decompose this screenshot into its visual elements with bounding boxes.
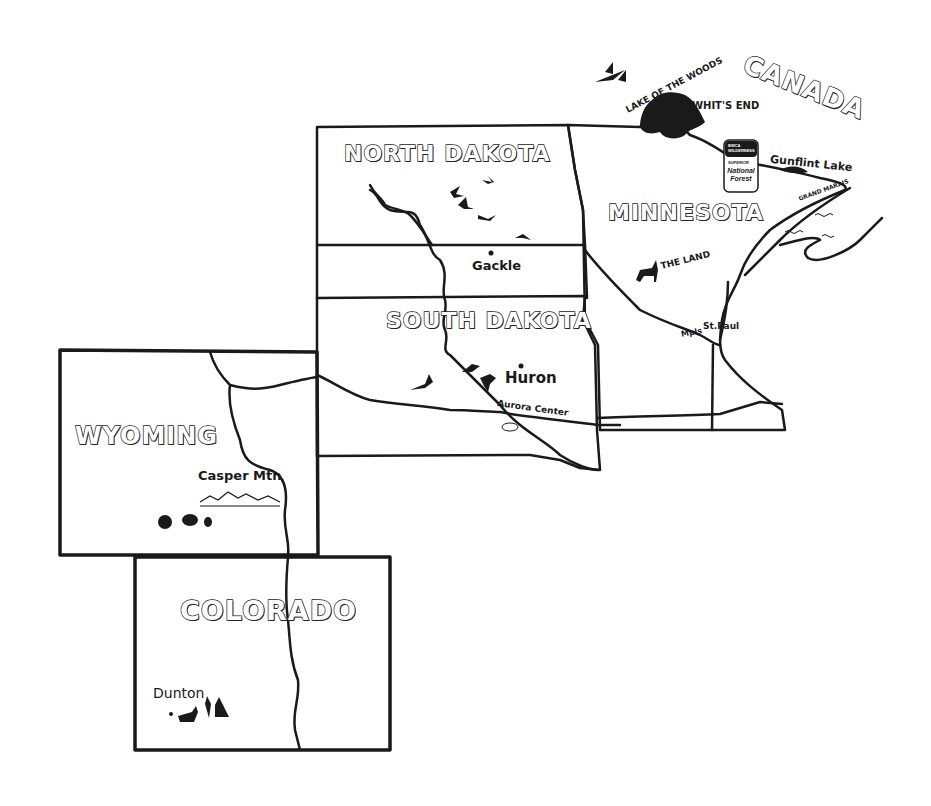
place-whits-end: WHIT'S END	[692, 100, 759, 111]
mississippi-river	[712, 282, 728, 430]
sign-line-4: Forest	[726, 175, 756, 183]
place-huron: Huron	[505, 369, 557, 387]
place-casper-mtn: Casper Mtn	[198, 468, 282, 483]
state-label-minnesota: MINNESOTA	[608, 200, 764, 225]
turkeys-icon	[158, 514, 212, 529]
state-label-wyoming: WYOMING	[75, 422, 218, 450]
place-gackle: Gackle	[472, 258, 521, 273]
mountain-range-icon	[200, 492, 280, 506]
sign-bottom-text: National Forest	[726, 167, 756, 183]
colorado-border	[135, 557, 390, 750]
co-river	[286, 557, 300, 750]
state-label-north-dakota: NORTH DAKOTA	[344, 141, 551, 166]
dakota-middle-band	[317, 245, 587, 298]
place-dunton: Dunton	[153, 685, 204, 701]
place-st-paul: St.Paul	[703, 321, 739, 331]
geese-flock-icon	[450, 176, 531, 240]
state-label-south-dakota: SOUTH DAKOTA	[386, 308, 592, 333]
sign-line-2: WILDERNESS	[728, 148, 755, 153]
state-label-colorado: COLORADO	[180, 595, 357, 626]
sd-river-west	[317, 375, 620, 425]
mn-south-line	[598, 402, 782, 418]
gackle-dot	[489, 251, 494, 256]
sign-mid-text: SUPERIOR	[728, 160, 749, 165]
huron-dot	[519, 364, 524, 369]
map-canvas	[0, 0, 931, 806]
nd-river	[370, 185, 432, 245]
lake-superior-shore	[745, 188, 882, 275]
geese-canada-icon	[595, 62, 626, 82]
sign-top-text: BWCA WILDERNESS	[728, 143, 755, 153]
lake-waves-icon	[785, 214, 834, 238]
aurora-center-marker	[502, 423, 518, 431]
sign-line-3: National	[726, 167, 756, 175]
deer-icon	[636, 260, 658, 282]
wy-river	[210, 352, 317, 555]
